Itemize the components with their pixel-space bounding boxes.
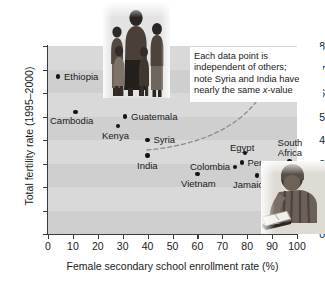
x-tick <box>73 235 74 239</box>
annotation-line-4-suffix: -value <box>267 85 292 95</box>
x-tick <box>197 235 198 239</box>
y-tick <box>43 46 47 47</box>
x-tick <box>272 235 273 239</box>
x-tick-label: 100 <box>284 241 310 252</box>
scatter-plot-figure: 8 7 6 5 4 3 2 1 0 0 10 20 30 40 50 60 70… <box>0 0 325 285</box>
annotation-line-4: nearly the same x-value <box>194 85 320 96</box>
data-label-guatemala: Guatemala <box>131 112 177 122</box>
x-tick-label: 80 <box>234 241 260 252</box>
annotation-callout: Each data point is independent of others… <box>190 47 323 102</box>
data-point-vietnam[interactable] <box>195 172 199 176</box>
y-tick-label: 5 <box>283 112 325 123</box>
y-tick <box>43 211 47 212</box>
x-tick <box>123 235 124 239</box>
data-label-kenya: Kenya <box>102 131 129 141</box>
data-label-egypt: Egypt <box>230 143 254 153</box>
data-label-south-africa-text: South Africa <box>278 137 303 158</box>
data-point-india[interactable] <box>145 153 149 157</box>
x-tick <box>148 235 149 239</box>
y-axis-line <box>47 45 48 235</box>
y-axis-title: Total fertility rate (1995–2000) <box>23 41 35 231</box>
x-tick-label: 70 <box>209 241 235 252</box>
data-label-cambodia: Cambodia <box>50 116 93 126</box>
y-tick <box>43 234 47 235</box>
x-tick-label: 60 <box>184 241 210 252</box>
data-label-vietnam: Vietnam <box>181 179 216 189</box>
data-label-colombia: Colombia <box>190 162 230 172</box>
data-label-india: India <box>137 161 158 171</box>
y-tick <box>43 70 47 71</box>
x-tick-label: 30 <box>110 241 136 252</box>
y-tick <box>43 187 47 188</box>
x-tick-label: 10 <box>60 241 86 252</box>
data-label-ethiopia: Ethiopia <box>64 72 98 82</box>
x-tick <box>297 235 298 239</box>
x-tick <box>173 235 174 239</box>
annotation-line-1: Each data point is <box>194 51 320 62</box>
data-point-kenya[interactable] <box>116 124 120 128</box>
x-tick-label: 0 <box>35 241 61 252</box>
x-axis-title: Female secondary school enrollment rate … <box>40 260 305 272</box>
annotation-line-2: independent of others; <box>194 62 320 73</box>
y-tick <box>43 140 47 141</box>
family-photograph <box>103 2 170 98</box>
reader-photograph <box>261 161 325 234</box>
data-label-syria: Syria <box>154 135 176 145</box>
x-tick-label: 20 <box>85 241 111 252</box>
x-tick-label: 40 <box>135 241 161 252</box>
x-tick <box>222 235 223 239</box>
data-point-jamaica[interactable] <box>255 173 259 177</box>
y-tick <box>43 93 47 94</box>
x-tick-label: 50 <box>160 241 186 252</box>
annotation-line-3: note Syria and India have <box>194 74 320 85</box>
x-tick <box>98 235 99 239</box>
y-tick <box>43 164 47 165</box>
data-point-cambodia[interactable] <box>73 110 77 114</box>
band-row <box>48 187 297 211</box>
data-point-peru[interactable] <box>240 160 244 164</box>
annotation-line-4-prefix: nearly the same <box>194 85 263 95</box>
data-label-south-africa: South Africa <box>272 138 308 158</box>
data-point-syria[interactable] <box>145 138 149 142</box>
data-point-ethiopia[interactable] <box>56 74 60 78</box>
y-tick <box>43 117 47 118</box>
x-tick <box>247 235 248 239</box>
x-tick <box>48 235 49 239</box>
x-tick-label: 90 <box>259 241 285 252</box>
